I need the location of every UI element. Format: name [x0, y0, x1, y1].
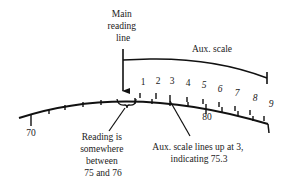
svg-text:1: 1 — [141, 77, 146, 87]
reading-brace — [117, 99, 136, 108]
reading-range-annotation: Reading is somewhere between 75 and 76 — [80, 132, 126, 178]
aux-tick-labels: 1 2 3 4 5 6 7 8 9 — [141, 76, 274, 109]
svg-text:4: 4 — [186, 78, 191, 88]
aux-scale-bracket — [123, 59, 267, 78]
vernier-diagram: Main reading line Aux. scale 1 2 3 4 5 6… — [0, 0, 298, 182]
svg-text:6: 6 — [218, 84, 223, 94]
main-scale-arc — [19, 101, 268, 124]
aux-scale-label: Aux. scale — [192, 44, 232, 54]
main-reading-line-label: Main reading line — [108, 9, 139, 43]
aux-alignment-annotation: Aux. scale lines up at 3, indicating 75.… — [152, 142, 245, 164]
main-scale-label-70: 70 — [26, 128, 36, 138]
svg-text:9: 9 — [269, 99, 274, 109]
svg-text:3: 3 — [170, 76, 175, 86]
svg-text:7: 7 — [235, 88, 241, 98]
main-scale-label-80: 80 — [202, 112, 212, 122]
svg-text:2: 2 — [156, 76, 161, 86]
svg-text:5: 5 — [202, 80, 207, 90]
reading-pointer-line — [109, 108, 125, 131]
main-scale-end-tick — [268, 124, 269, 133]
svg-text:8: 8 — [253, 93, 258, 103]
